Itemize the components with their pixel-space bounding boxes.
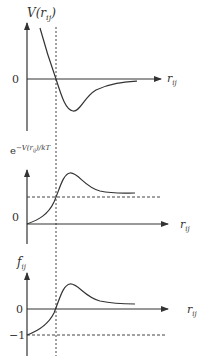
panel-mayer: fij 0 −1 rij bbox=[9, 255, 198, 356]
x-axis-label: rij bbox=[187, 303, 198, 318]
y-axis-label: fij bbox=[16, 255, 27, 271]
potential-curve bbox=[40, 28, 137, 111]
boltzmann-curve bbox=[27, 173, 135, 224]
x-axis-label: rij bbox=[167, 72, 178, 87]
panel-boltzmann: e−V(rij)/kT 0 rij bbox=[10, 144, 191, 244]
panel-potential: V(rij) 0 rij bbox=[12, 6, 178, 131]
x-axis-label: rij bbox=[180, 218, 191, 233]
figure-canvas: V(rij) 0 rij e−V(rij)/kT 0 rij fij 0 −1 … bbox=[0, 0, 204, 363]
tick-label-minus-one: −1 bbox=[9, 329, 25, 342]
tick-label-zero: 0 bbox=[16, 303, 23, 316]
y-axis-label: V(rij) bbox=[27, 6, 56, 22]
tick-label-zero: 0 bbox=[12, 211, 19, 224]
y-axis-label: e−V(rij)/kT bbox=[10, 144, 51, 156]
tick-label-zero: 0 bbox=[12, 73, 19, 86]
